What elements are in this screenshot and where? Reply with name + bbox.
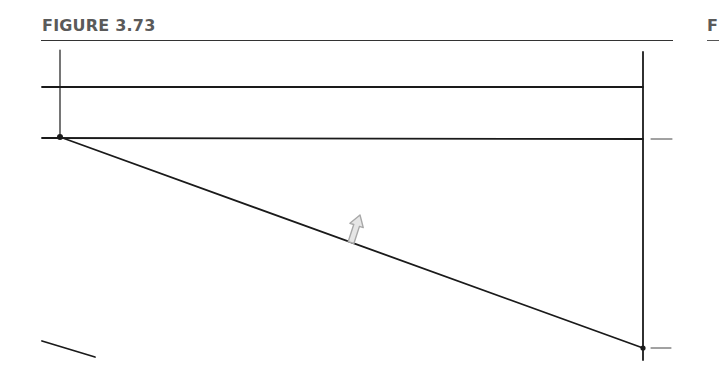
mouse-cursor-icon	[344, 213, 366, 245]
upper-left-endpoint[interactable]	[57, 134, 63, 140]
lower-right-endpoint[interactable]	[640, 345, 645, 350]
bottom-left-partial-line[interactable]	[42, 341, 95, 357]
middle-horizontal-line[interactable]	[42, 138, 643, 139]
